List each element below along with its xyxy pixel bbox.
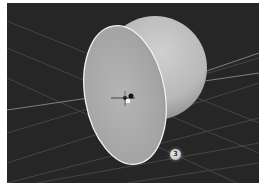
scene [7, 3, 259, 183]
3d-viewport[interactable]: 3 [7, 3, 259, 183]
callout-badge: 3 [170, 149, 181, 160]
